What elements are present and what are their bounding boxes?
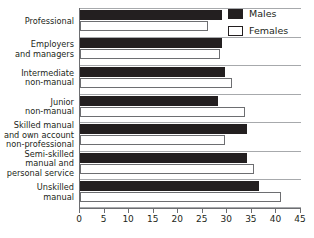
axis-tick [251,209,252,213]
bar-females-4 [80,135,225,145]
gridline [80,179,301,180]
bar-females-6 [80,192,281,202]
axis-tick [300,209,301,213]
bar-males-1 [80,38,222,48]
category-label-line: manual [0,193,74,202]
category-label-line: non-manual [0,78,74,87]
axis-tick [104,209,105,213]
bar-females-1 [80,49,220,59]
bar-females-3 [80,107,245,117]
category-label-line: and managers [0,50,74,59]
category-label-2: Intermediatenon-manual [0,69,74,88]
axis-tick-label: 30 [221,214,232,225]
bar-males-3 [80,96,218,106]
axis-tick-label: 40 [270,214,281,225]
axis-tick [79,209,80,213]
category-label-line: Professional [0,17,74,26]
bar-males-4 [80,124,247,134]
plot-area [79,8,301,208]
bar-males-2 [80,67,225,77]
axis-tick-label: 20 [171,214,182,225]
category-label-3: Juniornon-manual [0,98,74,117]
axis-tick [153,209,154,213]
category-label-line: personal service [0,169,74,178]
axis-line [79,208,301,209]
category-label-line: non-manual [0,107,74,116]
category-label-5: Semi-skilledmanual andpersonal service [0,150,74,178]
bar-females-2 [80,78,232,88]
gridline [80,65,301,66]
axis-tick [128,209,129,213]
axis-tick [226,209,227,213]
gridline [80,122,301,123]
axis-tick-label: 35 [245,214,256,225]
bar-chart: Males Females ProfessionalEmployersand m… [0,0,314,238]
axis-tick-label: 25 [196,214,207,225]
bar-males-6 [80,181,259,191]
axis-tick [275,209,276,213]
axis-tick-label: 0 [76,214,82,225]
bar-males-0 [80,10,222,20]
category-label-1: Employersand managers [0,40,74,59]
axis-tick [202,209,203,213]
axis-tick-label: 5 [101,214,107,225]
bar-females-5 [80,164,254,174]
bar-males-5 [80,153,247,163]
category-label-4: Skilled manualand own accountnon-profess… [0,121,74,149]
value-axis: 051015202530354045 [79,208,301,238]
axis-tick-label: 45 [294,214,305,225]
axis-tick [177,209,178,213]
axis-tick-label: 10 [122,214,133,225]
category-axis-labels: ProfessionalEmployersand managersInterme… [0,8,76,208]
category-label-6: Unskilledmanual [0,183,74,202]
bar-females-0 [80,21,208,31]
axis-tick-label: 15 [147,214,158,225]
category-label-0: Professional [0,17,74,26]
